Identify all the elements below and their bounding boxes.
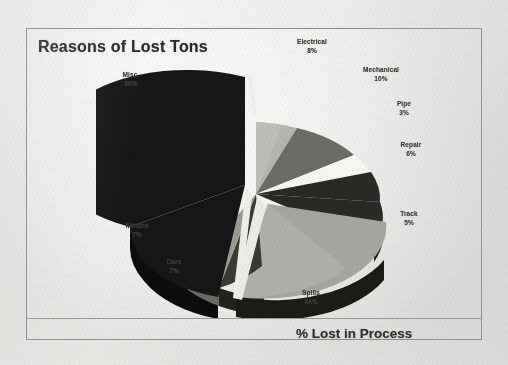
slice-label-motors-name: Motors [126,222,148,229]
explode-gap-top [248,76,257,118]
slice-label-pipe-name: Pipe [397,100,411,107]
slice-label-cars: Cars 7% [152,257,196,276]
slice-label-repair: Repair 6% [385,140,437,159]
slice-label-track-pct: 5% [385,218,433,227]
slice-label-cars-name: Cars [167,258,182,265]
chart-footer-label: % Lost in Process [296,326,412,341]
slice-label-electrical-name: Electrical [297,38,327,45]
slice-label-motors-pct: 7% [112,230,162,239]
slice-label-mechanical-name: Mechanical [363,66,399,73]
slice-label-track: Track 5% [385,209,433,228]
slice-label-electrical: Electrical 8% [281,37,343,56]
slice-label-spills: Spills 24% [287,288,335,307]
slice-label-repair-name: Repair [401,141,422,148]
slice-label-electrical-pct: 8% [281,46,343,55]
slice-label-misc-name: Misc. [123,71,140,78]
slice-label-motors: Motors 7% [112,221,162,240]
slice-label-misc: Misc. 30% [104,70,158,89]
slice-label-mechanical: Mechanical 10% [347,65,415,84]
slice-label-cars-pct: 7% [152,266,196,275]
slice-label-spills-pct: 24% [287,297,335,306]
scanned-page: Reasons of Lost Tons [0,0,508,365]
slice-label-repair-pct: 6% [385,149,437,158]
slice-label-spills-name: Spills [302,289,320,296]
slice-label-mechanical-pct: 10% [347,74,415,83]
slice-label-pipe-pct: 3% [381,108,427,117]
slice-label-misc-pct: 30% [104,79,158,88]
slice-label-pipe: Pipe 3% [381,99,427,118]
footer-divider [26,318,482,319]
slice-label-track-name: Track [400,210,418,217]
